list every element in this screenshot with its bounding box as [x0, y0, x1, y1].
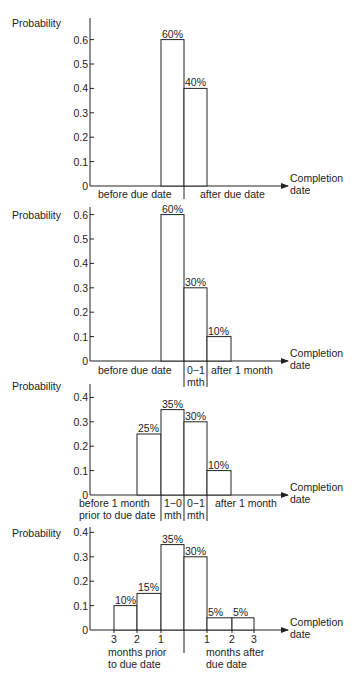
- bar-data-label: 10%: [208, 459, 229, 471]
- x-category-label: 0−1: [187, 497, 205, 509]
- x-group-label-before: months prior: [108, 646, 167, 658]
- y-tick-label: 0.2: [73, 440, 88, 452]
- x-category-label: before due date: [98, 364, 172, 376]
- bar: [161, 215, 184, 361]
- x-tick-label: 2: [134, 633, 140, 645]
- y-tick-label: 0.4: [73, 526, 88, 538]
- chart-2: Probability00.10.20.30.40.50.660%30%10%b…: [12, 203, 343, 388]
- x-tick-label: 3: [111, 633, 117, 645]
- x-axis-label: date: [290, 184, 311, 196]
- bar: [184, 88, 207, 186]
- y-axis-label: Probability: [12, 17, 62, 29]
- bar: [161, 410, 184, 495]
- x-category-label: before due date: [98, 188, 172, 200]
- y-tick-label: 0.3: [73, 282, 88, 294]
- bar-data-label: 60%: [162, 203, 183, 215]
- y-tick-label: 0.1: [73, 331, 88, 343]
- x-category-label: prior to due date: [79, 509, 156, 521]
- y-axis-label: Probability: [12, 527, 62, 539]
- y-tick-label: 0.2: [73, 575, 88, 587]
- x-axis-label: Completion: [290, 347, 343, 359]
- bar-data-label: 10%: [208, 325, 229, 337]
- bar: [161, 40, 184, 186]
- x-group-label-after: due date: [206, 658, 247, 670]
- chart-3: Probability00.10.20.30.425%35%30%10%befo…: [12, 380, 343, 521]
- bar-data-label: 35%: [162, 533, 183, 545]
- bar: [207, 471, 231, 495]
- bar-data-label: 5%: [208, 606, 223, 618]
- bar-data-label: 5%: [233, 606, 248, 618]
- bar-data-label: 25%: [138, 422, 159, 434]
- y-tick-label: 0: [82, 624, 88, 636]
- bar: [137, 593, 161, 630]
- y-tick-label: 0.3: [73, 107, 88, 119]
- y-tick-label: 0.5: [73, 58, 88, 70]
- bar: [207, 337, 231, 361]
- y-axis-label: Probability: [12, 209, 62, 221]
- x-category-label: after due date: [200, 188, 265, 200]
- bar-data-label: 10%: [115, 594, 136, 606]
- x-axis-label: date: [290, 493, 311, 505]
- bar: [232, 618, 254, 630]
- x-group-label-before: to due date: [108, 658, 161, 670]
- x-category-label: before 1 month: [79, 497, 150, 509]
- x-axis-label: Completion: [290, 616, 343, 628]
- x-category-label: mth: [187, 509, 205, 521]
- bar-data-label: 30%: [185, 276, 206, 288]
- bar-data-label: 30%: [185, 410, 206, 422]
- y-tick-label: 0.4: [73, 257, 88, 269]
- y-tick-label: 0: [82, 355, 88, 367]
- bar-data-label: 15%: [138, 581, 159, 593]
- x-category-label: mth: [164, 509, 182, 521]
- bar: [184, 422, 207, 495]
- x-tick-label: 2: [229, 633, 235, 645]
- x-category-label: after 1 month: [211, 364, 273, 376]
- y-tick-label: 0.6: [73, 209, 88, 221]
- y-tick-label: 0.1: [73, 600, 88, 612]
- y-tick-label: 0.4: [73, 391, 88, 403]
- y-tick-label: 0.3: [73, 416, 88, 428]
- y-tick-label: 0.5: [73, 233, 88, 245]
- y-tick-label: 0.1: [73, 156, 88, 168]
- x-category-label: after 1 month: [215, 497, 277, 509]
- x-tick-label: 1: [204, 633, 210, 645]
- x-axis-label: date: [290, 628, 311, 640]
- bar: [184, 557, 207, 630]
- bar: [137, 434, 161, 495]
- bar: [184, 288, 207, 361]
- bar-data-label: 30%: [185, 545, 206, 557]
- x-category-label: 0−1: [187, 364, 205, 376]
- y-tick-label: 0.6: [73, 34, 88, 46]
- bar-data-label: 60%: [162, 28, 183, 40]
- y-axis-label: Probability: [12, 380, 62, 392]
- y-tick-label: 0.4: [73, 82, 88, 94]
- x-tick-label: 1: [158, 633, 164, 645]
- bar-data-label: 35%: [162, 398, 183, 410]
- chart-1: Probability00.10.20.30.40.50.660%40%befo…: [12, 17, 343, 200]
- bar: [207, 618, 232, 630]
- bar: [114, 606, 137, 630]
- bar: [161, 545, 184, 630]
- x-category-label: mth: [187, 376, 205, 388]
- y-tick-label: 0.2: [73, 306, 88, 318]
- x-axis-label: date: [290, 359, 311, 371]
- x-axis-label: Completion: [290, 481, 343, 493]
- x-group-label-after: months after: [206, 646, 265, 658]
- y-tick-label: 0.3: [73, 551, 88, 563]
- y-tick-label: 0: [82, 180, 88, 192]
- x-category-label: 1−0: [164, 497, 182, 509]
- chart-4: Probability00.10.20.30.410%15%35%30%5%5%…: [12, 526, 343, 670]
- y-tick-label: 0.2: [73, 131, 88, 143]
- y-tick-label: 0.1: [73, 465, 88, 477]
- x-axis-label: Completion: [290, 172, 343, 184]
- bar-data-label: 40%: [185, 76, 206, 88]
- completion-probability-charts: Probability00.10.20.30.40.50.660%40%befo…: [0, 0, 359, 679]
- x-tick-label: 3: [251, 633, 257, 645]
